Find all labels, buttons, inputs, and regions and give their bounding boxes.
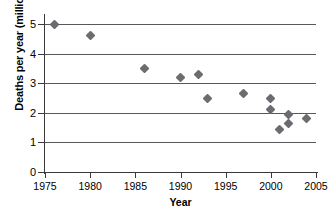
y-tick-label: 5: [20, 18, 36, 30]
x-tick: [135, 172, 136, 178]
x-tick-label: 1975: [25, 180, 65, 192]
x-axis-line: [38, 172, 318, 173]
x-tick-label: 1985: [115, 180, 155, 192]
y-tick-label: 0: [20, 166, 36, 178]
y-tick: [38, 142, 45, 143]
y-tick: [38, 54, 45, 55]
x-tick-label: 2005: [296, 180, 332, 192]
x-tick: [45, 172, 46, 178]
scatter-chart: Deaths per year (millions) 012345 197519…: [0, 0, 332, 215]
x-tick: [226, 172, 227, 178]
x-tick-label: 1990: [161, 180, 201, 192]
y-tick-label: 2: [20, 107, 36, 119]
y-tick-label: 4: [20, 48, 36, 60]
x-tick: [316, 172, 317, 178]
y-tick-label: 1: [20, 136, 36, 148]
y-tick: [38, 172, 45, 173]
x-tick-label: 2000: [251, 180, 291, 192]
x-tick: [90, 172, 91, 178]
x-tick: [271, 172, 272, 178]
y-tick: [38, 24, 45, 25]
x-tick: [181, 172, 182, 178]
x-axis-label: Year: [45, 196, 316, 208]
y-tick-label: 3: [20, 77, 36, 89]
x-tick-label: 1995: [206, 180, 246, 192]
y-tick: [38, 113, 45, 114]
x-tick-label: 1980: [70, 180, 110, 192]
y-tick: [38, 83, 45, 84]
